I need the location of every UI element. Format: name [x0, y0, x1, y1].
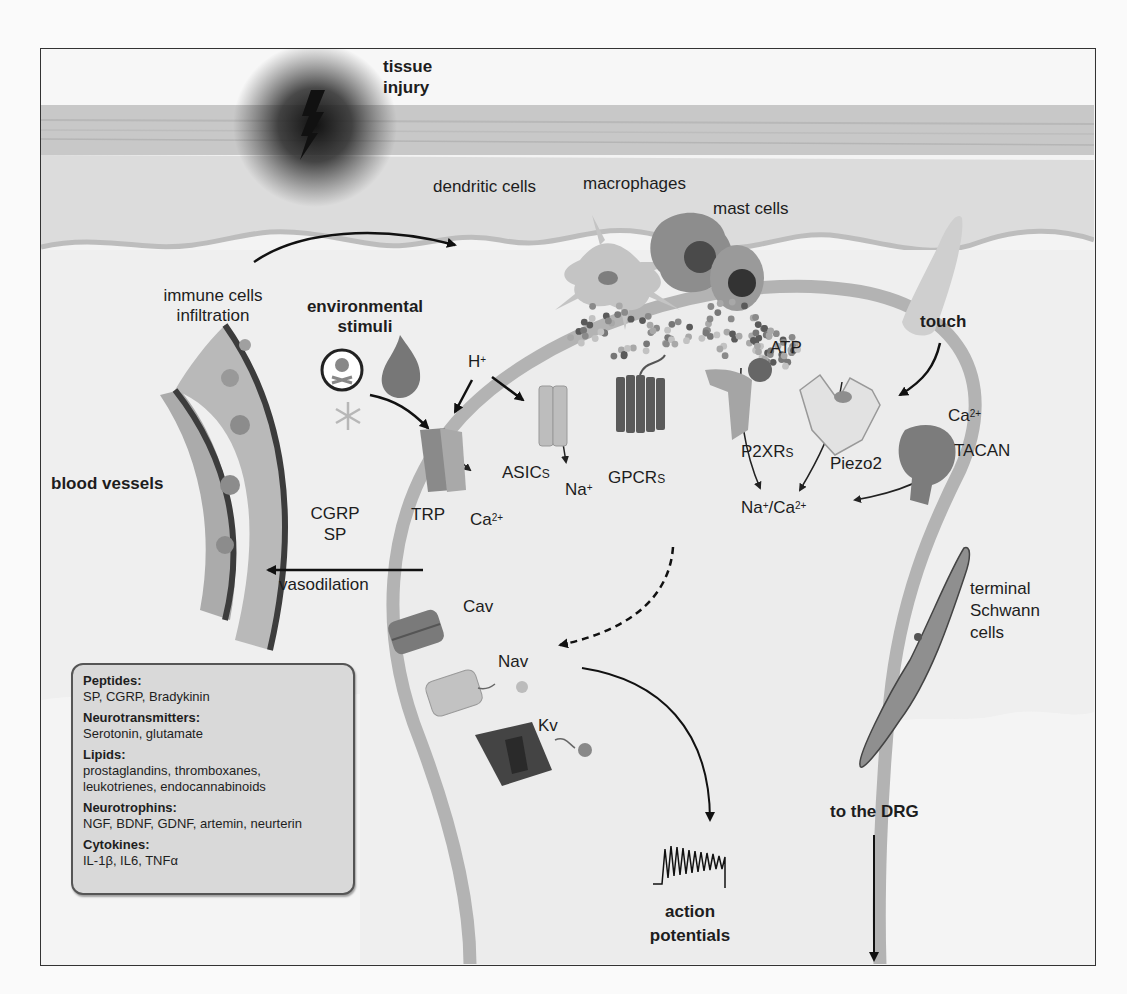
legend-heading-lipids: Lipids:	[83, 747, 343, 763]
legend-heading-neurotransmitters: Neurotransmitters:	[83, 710, 343, 726]
nav-label: Nav	[498, 652, 528, 672]
sodium-calcium-label: Na+/Ca2+	[741, 498, 806, 518]
tacan-calcium-label: Ca2+	[948, 406, 981, 426]
asics-label: ASICS	[502, 463, 550, 484]
asic-channel	[539, 386, 567, 446]
action-potentials-label: actionpotentials	[645, 900, 735, 948]
kv-label: Kv	[538, 716, 558, 736]
immune-infiltration-label: immune cellsinfiltration	[138, 286, 288, 326]
legend-items-neurotrophins: NGF, BDNF, GDNF, artemin, neurterin	[83, 816, 343, 832]
legend-items-peptides: SP, CGRP, Bradykinin	[83, 689, 343, 705]
tissue-injury-label: tissueinjury	[383, 56, 432, 98]
environmental-stimuli-label: environmentalstimuli	[305, 297, 425, 337]
legend-heading-peptides: Peptides:	[83, 673, 343, 689]
legend-items-lipids: prostaglandins, thromboxanes,	[83, 763, 343, 779]
vasodilation-label: vasodilation	[279, 575, 369, 595]
cav-label: Cav	[463, 597, 493, 617]
skull-crossbones-icon	[322, 350, 362, 390]
piezo2-label: Piezo2	[830, 454, 882, 474]
trp-channel	[420, 428, 466, 492]
p2xrs-label: P2XRS	[741, 442, 793, 463]
mediators-legend: Peptides: SP, CGRP, Bradykinin Neurotran…	[71, 663, 355, 895]
neuropeptide-label: CGRPSP	[300, 503, 370, 545]
terminal-schwann-cells-label: terminalSchwanncells	[970, 578, 1040, 644]
touch-label: touch	[920, 312, 966, 332]
macrophages-label: macrophages	[583, 174, 686, 194]
legend-items-lipids-cont: leukotrienes, endocannabinoids	[83, 779, 343, 795]
legend-items-neurotransmitters: Serotonin, glutamate	[83, 726, 343, 742]
atp-label: ATP	[770, 338, 802, 358]
trp-calcium-label: Ca2+	[470, 510, 503, 530]
tacan-label: TACAN	[954, 441, 1010, 461]
asics-sodium-label: Na+	[565, 480, 593, 500]
to-drg-label: to the DRG	[830, 802, 919, 822]
mast-cells-label: mast cells	[713, 199, 789, 219]
legend-heading-neurotrophins: Neurotrophins:	[83, 800, 343, 816]
legend-heading-cytokines: Cytokines:	[83, 837, 343, 853]
trp-label: TRP	[411, 505, 445, 525]
gpcrs-label: GPCRS	[608, 468, 665, 489]
blood-vessels-label: blood vessels	[51, 474, 163, 494]
epidermis-band	[41, 105, 1094, 155]
dendritic-cells-label: dendritic cells	[433, 177, 536, 197]
legend-items-cytokines: IL-1β, IL6, TNFα	[83, 853, 343, 869]
proton-label: H+	[468, 352, 486, 372]
